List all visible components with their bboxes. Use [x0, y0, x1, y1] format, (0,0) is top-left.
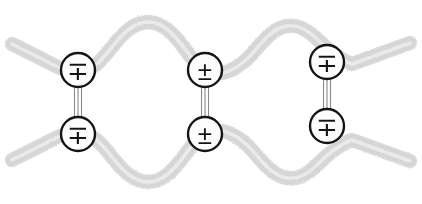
charge-glyph: ∓: [316, 48, 338, 78]
charge-upper-left[interactable]: ∓: [61, 53, 95, 87]
charge-glyph: ±: [198, 120, 212, 150]
strand-group: [12, 22, 410, 182]
charge-lower-middle[interactable]: ±: [188, 117, 222, 151]
charge-glyph: ∓: [316, 112, 338, 142]
charge-upper-right[interactable]: ∓: [310, 45, 344, 79]
charge-glyph: ∓: [67, 56, 89, 86]
charge-lower-right[interactable]: ∓: [310, 109, 344, 143]
charge-glyph: ∓: [67, 120, 89, 150]
charge-upper-middle[interactable]: ±: [188, 53, 222, 87]
polymer-crosslink-diagram: ∓ ∓ ± ± ∓ ∓: [0, 0, 422, 204]
charge-glyph: ±: [198, 56, 212, 86]
diagram-canvas: ∓ ∓ ± ± ∓ ∓: [0, 0, 422, 204]
charge-lower-left[interactable]: ∓: [61, 117, 95, 151]
